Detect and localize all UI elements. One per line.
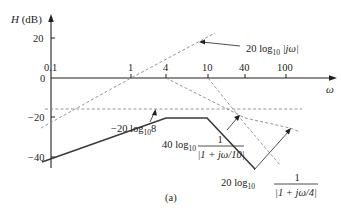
bode-plot-figure: H (dB) 20 0 −20 −40 0.1 1 4 10 40 100 ω … [0, 0, 341, 215]
annotation-20log-jw: 20 log10 |jω| [199, 40, 299, 58]
svg-text:20 log10: 20 log10 [221, 177, 255, 191]
curve-total-response [42, 118, 255, 169]
y-axis-label: H (dB) [10, 13, 42, 26]
svg-text:40 log10: 40 log10 [162, 139, 196, 153]
x-tick-label-4: 4 [163, 62, 169, 73]
x-axis-arrow-icon [329, 75, 337, 81]
svg-text:|1 + jω/10|: |1 + jω/10| [197, 149, 244, 160]
svg-text:20 log10 |jω|: 20 log10 |jω| [246, 43, 299, 57]
x-axis [51, 74, 337, 81]
x-tick-label-1: 1 [128, 62, 133, 73]
svg-text:|1 + jω/4|: |1 + jω/4| [275, 187, 317, 198]
figure-caption: (a) [165, 192, 177, 204]
x-tick-label-10: 10 [202, 62, 213, 73]
curve-pole-at-4 [166, 78, 300, 132]
y-axis [48, 14, 55, 168]
x-tick-label-100: 100 [277, 62, 293, 73]
svg-text:1: 1 [294, 172, 299, 183]
y-tick-label-20: 20 [33, 33, 44, 44]
x-tick-label-0.1: 0.1 [44, 62, 57, 73]
annotation-pole-at-10: 40 log10 1 |1 + jω/10| [162, 115, 245, 160]
svg-text:1: 1 [217, 134, 222, 145]
x-axis-label: ω [326, 83, 334, 95]
annotation-minus20log8: −20 log108 [111, 109, 157, 137]
annotation-pole-at-4: 20 log10 1 |1 + jω/4| [221, 128, 318, 198]
y-tick-label-minus20: −20 [28, 112, 44, 123]
x-tick-label-40: 40 [239, 62, 250, 73]
y-axis-arrow-icon [48, 14, 54, 22]
y-tick-label-0: 0 [40, 73, 45, 84]
curve-20log-jw [41, 33, 215, 128]
